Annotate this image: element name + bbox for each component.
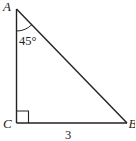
angle-label-a: 45° [19,34,37,48]
vertex-label-c: C [3,116,12,131]
angle-arc-a [17,25,33,32]
vertex-label-a: A [2,0,11,14]
vertex-label-b: B [129,116,136,131]
triangle-diagram: A 45° C 3 B [0,0,135,141]
side-label-cb: 3 [65,128,71,141]
right-angle-marker [17,111,29,123]
side-ab [17,9,128,123]
